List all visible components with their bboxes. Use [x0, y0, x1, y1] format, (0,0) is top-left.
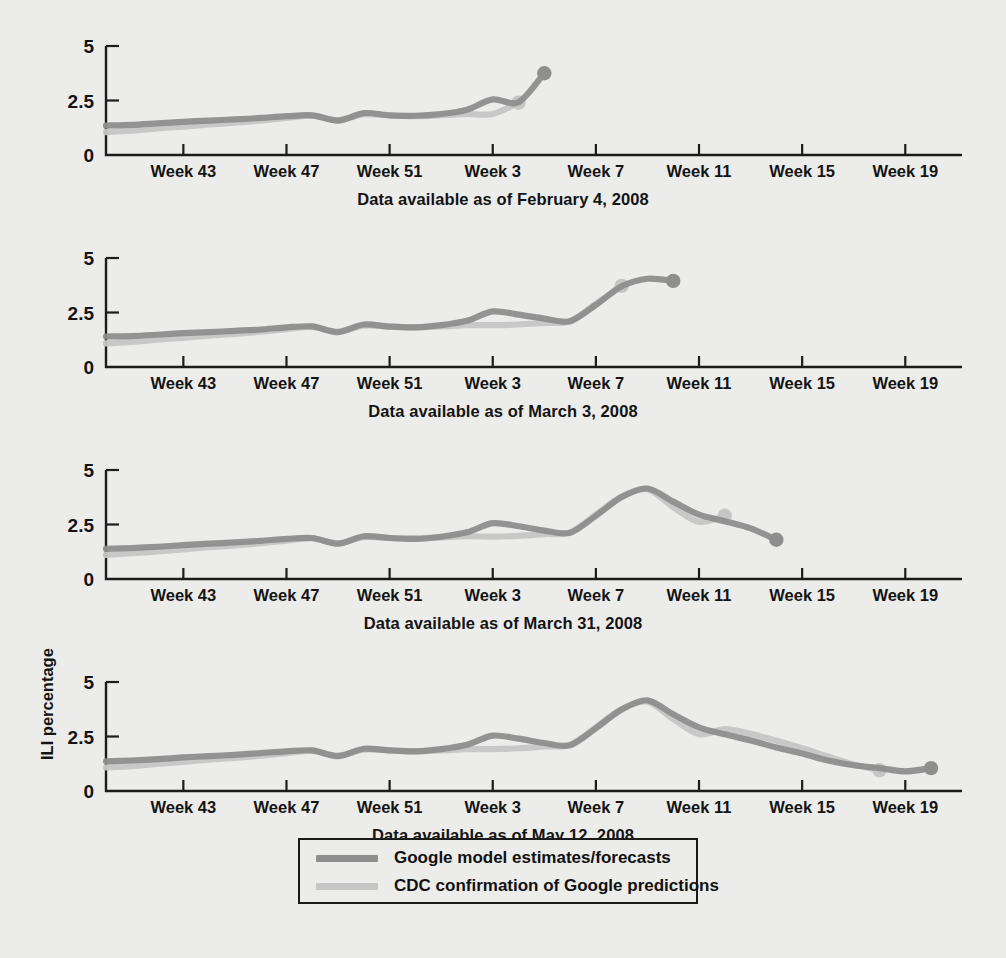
series-endpoint-google: [537, 66, 551, 80]
x-tick-label: Week 51: [357, 374, 423, 392]
legend-item-cdc: CDC confirmation of Google predictions: [300, 872, 696, 900]
legend-label-google: Google model estimates/forecasts: [394, 848, 671, 868]
x-tick-label: Week 7: [568, 374, 625, 392]
legend: Google model estimates/forecasts CDC con…: [298, 838, 698, 904]
legend-label-cdc: CDC confirmation of Google predictions: [394, 876, 719, 896]
figure-canvas: ILI percentage 02.55Week 43Week 47Week 5…: [0, 0, 1006, 958]
x-tick-label: Week 43: [150, 798, 216, 816]
legend-item-google: Google model estimates/forecasts: [300, 844, 696, 872]
y-tick-label: 0: [83, 781, 94, 802]
panel-1: 02.55Week 43Week 47Week 51Week 3Week 7We…: [0, 10, 1006, 220]
x-tick-label: Week 19: [872, 162, 938, 180]
x-tick-label: Week 43: [150, 586, 216, 604]
panel-3: 02.55Week 43Week 47Week 51Week 3Week 7We…: [0, 434, 1006, 644]
x-tick-label: Week 47: [254, 162, 320, 180]
series-endpoint-google: [924, 761, 938, 775]
y-tick-label: 2.5: [68, 515, 95, 536]
y-tick-label: 2.5: [68, 303, 95, 324]
axis-lines: [106, 682, 962, 791]
x-tick-label: Week 19: [872, 798, 938, 816]
x-tick-label: Week 3: [464, 586, 521, 604]
x-tick-label: Week 51: [357, 162, 423, 180]
plot-area-3: 02.55Week 43Week 47Week 51Week 3Week 7We…: [0, 434, 1006, 609]
x-tick-label: Week 47: [254, 798, 320, 816]
y-tick-label: 0: [83, 569, 94, 590]
panel-caption-3: Data available as of March 31, 2008: [0, 614, 1006, 633]
x-tick-label: Week 47: [254, 374, 320, 392]
plot-area-2: 02.55Week 43Week 47Week 51Week 3Week 7We…: [0, 222, 1006, 397]
panel-2: 02.55Week 43Week 47Week 51Week 3Week 7We…: [0, 222, 1006, 432]
x-tick-label: Week 11: [667, 374, 732, 392]
y-tick-label: 0: [83, 357, 94, 378]
x-tick-label: Week 19: [872, 374, 938, 392]
x-tick-label: Week 3: [464, 162, 521, 180]
x-tick-label: Week 47: [254, 586, 320, 604]
axis-lines: [106, 470, 962, 579]
plot-area-4: 02.55Week 43Week 47Week 51Week 3Week 7We…: [0, 646, 1006, 821]
x-tick-label: Week 7: [568, 798, 625, 816]
axis-lines: [106, 46, 962, 155]
x-tick-label: Week 43: [150, 374, 216, 392]
y-tick-label: 2.5: [68, 91, 95, 112]
x-tick-label: Week 7: [568, 586, 625, 604]
x-tick-label: Week 7: [568, 162, 625, 180]
panel-caption-2: Data available as of March 3, 2008: [0, 402, 1006, 421]
x-tick-label: Week 11: [667, 798, 732, 816]
y-tick-label: 5: [83, 248, 94, 269]
x-tick-label: Week 15: [769, 798, 835, 816]
y-tick-label: 5: [83, 460, 94, 481]
legend-swatch-cdc: [316, 883, 378, 890]
y-tick-label: 5: [83, 672, 94, 693]
x-tick-label: Week 19: [872, 586, 938, 604]
x-tick-label: Week 51: [357, 798, 423, 816]
series-endpoint-google: [769, 533, 783, 547]
y-tick-label: 5: [83, 36, 94, 57]
series-endpoint-google: [666, 274, 680, 288]
x-tick-label: Week 3: [464, 374, 521, 392]
x-tick-label: Week 51: [357, 586, 423, 604]
x-tick-label: Week 11: [667, 586, 732, 604]
x-tick-label: Week 3: [464, 798, 521, 816]
plot-area-1: 02.55Week 43Week 47Week 51Week 3Week 7We…: [0, 10, 1006, 185]
y-tick-label: 2.5: [68, 727, 95, 748]
x-tick-label: Week 43: [150, 162, 216, 180]
x-tick-label: Week 15: [769, 162, 835, 180]
x-tick-label: Week 15: [769, 374, 835, 392]
panel-4: 02.55Week 43Week 47Week 51Week 3Week 7We…: [0, 646, 1006, 856]
x-tick-label: Week 11: [667, 162, 732, 180]
series-line-google: [106, 279, 673, 337]
series-line-google: [106, 73, 544, 125]
axis-lines: [106, 258, 962, 367]
panel-caption-1: Data available as of February 4, 2008: [0, 190, 1006, 209]
y-tick-label: 0: [83, 145, 94, 166]
legend-swatch-google: [316, 855, 378, 862]
x-tick-label: Week 15: [769, 586, 835, 604]
